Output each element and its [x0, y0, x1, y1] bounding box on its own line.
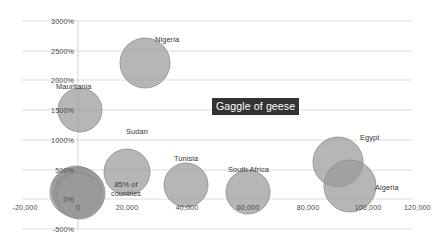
y-tick-1500: 1500% — [28, 107, 74, 114]
label-south-africa: South Africa — [228, 166, 269, 173]
y-tick-500: 500% — [28, 167, 74, 174]
bubble-nigeria[interactable] — [120, 38, 170, 88]
x-tick-minus20000: -20,000 — [2, 204, 48, 211]
x-tick-40000: 40,000 — [164, 204, 210, 211]
x-tick-0: 0 — [62, 204, 94, 211]
y-tick-minus500: -500% — [28, 226, 74, 233]
bubble-tunisia[interactable] — [164, 163, 208, 207]
y-tick-3000: 3000% — [28, 18, 74, 25]
label-mauritania: Mauritania — [56, 83, 92, 90]
x-tick-20000: 20,000 — [104, 204, 150, 211]
label-algeria: Algeria — [375, 184, 399, 191]
cluster-note-line-2: countries — [98, 190, 154, 199]
label-egypt: Egypt — [360, 134, 379, 141]
y-tick-1000: 1000% — [28, 137, 74, 144]
y-tick-2500: 2500% — [28, 48, 74, 55]
label-nigeria: Nigeria — [155, 36, 179, 43]
tooltip-gaggle-of-geese[interactable]: Gaggle of geese — [212, 98, 299, 115]
x-tick-120000: 120,000 — [404, 204, 435, 211]
x-tick-80000: 80,000 — [285, 204, 331, 211]
x-tick-100000: 100,000 — [343, 204, 393, 211]
x-tick-60000: 60,000 — [225, 204, 271, 211]
label-sudan: Sudan — [126, 128, 148, 135]
label-tunisia: Tunisia — [174, 155, 198, 162]
